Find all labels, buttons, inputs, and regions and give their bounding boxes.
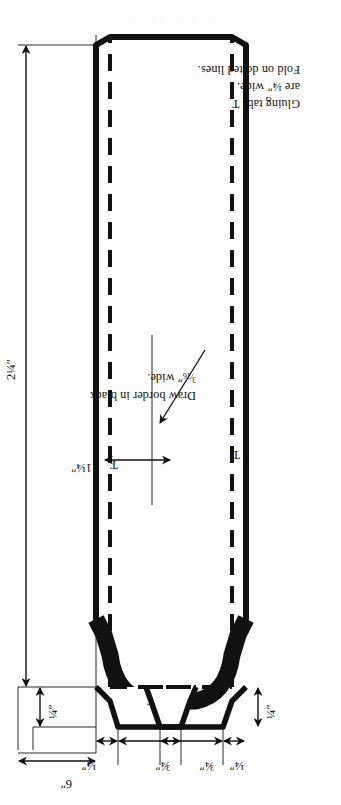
- dim-label-tab-offset-top: ¼″: [81, 758, 96, 773]
- rotated-page-container: 2¼″ ¼″ ¼″ ¾″ 6″ 1¼″ ¾″ ¼″ ¼″ T T T T Dra…: [0, 0, 341, 805]
- border-note-fraction-denominator: 16: [183, 371, 191, 380]
- border-note-line2: 3⁄16″ wide.: [147, 370, 196, 385]
- border-note-line2-suffix: ″ wide.: [147, 371, 183, 385]
- tab-marker-bottom-strip: T: [232, 448, 240, 463]
- border-note-line1: Draw border in black: [90, 389, 196, 403]
- tab-marker-top-left: T: [147, 694, 155, 709]
- tab-marker-bottom-left: T: [192, 694, 200, 709]
- diagram-stage: 2¼″ ¼″ ¼″ ¾″ 6″ 1¼″ ¾″ ¼″ ¼″ T T T T Dra…: [0, 0, 341, 805]
- dim-label-tab-width-bot: ¼″: [264, 704, 279, 719]
- border-note-fraction-numerator: 3: [192, 375, 196, 384]
- dim-label-waist-width: 1¼″: [71, 460, 92, 475]
- dim-label-tab-width-top: ¼″: [46, 704, 61, 719]
- dim-label-overall-width: 2¼″: [4, 359, 19, 380]
- dim-label-overall-height: 6″: [60, 776, 72, 791]
- fold-dotted-lines: [110, 39, 232, 687]
- gluing-note-line2: are ¼″ wide.: [237, 80, 300, 94]
- dim-label-tab-offset-bot: ¼″: [229, 758, 244, 773]
- pattern-outline: [96, 37, 246, 701]
- gluing-note-line1: Gluing tabs T: [232, 97, 300, 111]
- dim-label-tab-height-top: ¾″: [155, 758, 170, 773]
- border-note-fraction: 3⁄16: [183, 371, 196, 385]
- border-note-leader: [160, 350, 205, 423]
- dimension-arrows: [19, 46, 258, 761]
- figure-caption: DIAGRAM 2: [132, 9, 215, 25]
- dim-label-tab-height-bot: ¾″: [199, 758, 214, 773]
- tab-marker-top-strip: T: [110, 458, 118, 473]
- gluing-note-line3: Fold on dotted lines.: [198, 63, 300, 77]
